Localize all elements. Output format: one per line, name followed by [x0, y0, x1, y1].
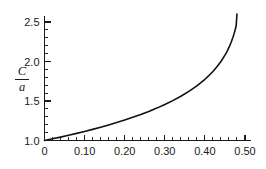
y-axis-tick-labels: 1.01.52.02.5 — [24, 16, 39, 147]
data-curve-c-over-a — [45, 14, 237, 140]
x-tick-label: 0 — [41, 145, 47, 157]
y-tick-label: 2.0 — [24, 56, 39, 68]
x-tick-label: 0.40 — [194, 145, 215, 157]
x-tick-label: 0.50 — [234, 145, 255, 157]
y-tick-label: 1.0 — [24, 135, 39, 147]
x-tick-label: 0.10 — [74, 145, 95, 157]
chart-figure: C a 00.100.200.300.400.50 1.01.52.02.5 — [0, 0, 266, 169]
x-axis-tick-labels: 00.100.200.300.400.50 — [41, 145, 255, 157]
x-tick-label: 0.30 — [154, 145, 175, 157]
y-axis-ticks — [45, 22, 51, 141]
y-tick-label: 2.5 — [24, 16, 39, 28]
y-axis-label-denominator: a — [19, 80, 25, 94]
x-tick-label: 0.20 — [114, 145, 135, 157]
y-axis-label: C a — [15, 64, 29, 94]
y-tick-label: 1.5 — [24, 95, 39, 107]
x-axis-ticks — [45, 135, 246, 141]
plot-area: C a 00.100.200.300.400.50 1.01.52.02.5 — [0, 0, 266, 169]
